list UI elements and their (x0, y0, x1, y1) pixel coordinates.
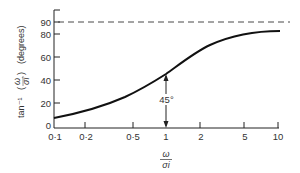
svg-text:0·2: 0·2 (79, 131, 93, 142)
svg-text:): ) (16, 72, 26, 75)
svg-text:2: 2 (198, 131, 203, 142)
svg-text:20: 20 (40, 98, 51, 109)
svg-text:(degrees): (degrees) (16, 25, 26, 64)
svg-text:60: 60 (40, 52, 51, 63)
chart: 90 80 60 40 20 0 0·1 0·2 0·5 1 2 5 10 45… (0, 0, 300, 173)
x-ticks (85, 122, 278, 128)
y-axis-label: tan⁻¹ ( ω σi ) (degrees) (12, 25, 31, 118)
svg-text:0·1: 0·1 (48, 131, 62, 142)
svg-text:45°: 45° (159, 94, 174, 105)
svg-text:σi: σi (162, 160, 170, 170)
svg-text:tan⁻¹: tan⁻¹ (16, 97, 26, 118)
x-axis-label: ω σi (160, 149, 172, 170)
svg-text:σi: σi (21, 77, 31, 85)
svg-text:5: 5 (242, 131, 247, 142)
svg-text:1: 1 (163, 131, 168, 142)
svg-text:ω: ω (162, 149, 169, 159)
svg-text:0·5: 0·5 (126, 131, 140, 142)
svg-text:90: 90 (40, 17, 51, 28)
x-tick-labels: 0·1 0·2 0·5 1 2 5 10 (48, 131, 283, 142)
y-tick-labels: 90 80 60 40 20 0 (40, 17, 51, 131)
svg-text:80: 80 (40, 29, 51, 40)
svg-text:(: ( (16, 87, 26, 90)
svg-text:40: 40 (40, 75, 51, 86)
svg-text:10: 10 (273, 131, 284, 142)
annotation-45deg: 45° (158, 74, 175, 128)
svg-text:0: 0 (46, 120, 51, 131)
y-ticks (54, 10, 60, 103)
